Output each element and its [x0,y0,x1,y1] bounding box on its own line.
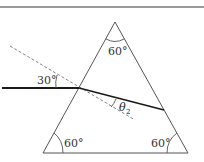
bottom-right-angle-label: 60° [151,137,171,150]
bottom-left-angle-label: 60° [64,137,84,150]
refraction-angle-arc [111,99,116,107]
apex-angle-arc [106,39,124,42]
prism-diagram: 60° 30° 60° 60° θ 2 [0,0,204,162]
theta-subscript: 2 [126,108,130,116]
apex-angle-label: 60° [108,45,128,58]
incident-angle-label: 30° [37,74,57,87]
bottom-left-angle-arc [54,133,63,153]
theta-symbol: θ [119,101,126,114]
